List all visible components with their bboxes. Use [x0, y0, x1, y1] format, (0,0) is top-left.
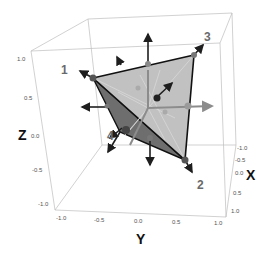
vertex-label-3: 3: [204, 30, 211, 44]
svg-text:-0.5: -0.5: [235, 157, 246, 163]
svg-text:0.0: 0.0: [235, 170, 244, 176]
z-axis-label: Z: [18, 127, 27, 143]
svg-text:-1.0: -1.0: [38, 201, 49, 207]
svg-text:0.5: 0.5: [24, 95, 33, 101]
svg-text:-1.0: -1.0: [237, 145, 248, 151]
svg-text:-0.5: -0.5: [32, 167, 43, 173]
svg-text:0.0: 0.0: [31, 133, 40, 139]
svg-text:0.0: 0.0: [134, 218, 143, 224]
y-axis-label: Y: [136, 231, 146, 247]
svg-text:-1.0: -1.0: [56, 215, 67, 221]
vertex-label-4: 4: [107, 129, 114, 143]
x-axis-label: X: [246, 167, 256, 183]
vertex-label-2: 2: [197, 178, 204, 192]
tetrahedron-3d-plot: 1 3 2 4 1.0 0.5 0.0 -0.5 -1.0 Z -1.0 -0.…: [0, 0, 269, 255]
vertex-label-1: 1: [61, 63, 68, 77]
arrow-upper-left: [117, 57, 121, 65]
svg-text:1.0: 1.0: [17, 56, 26, 62]
svg-text:-0.5: -0.5: [94, 217, 105, 223]
y-axis-ticks: -1.0 -0.5 0.0 0.5 1.0: [56, 215, 223, 226]
svg-text:1.0: 1.0: [231, 208, 240, 214]
svg-text:1.0: 1.0: [214, 220, 223, 226]
svg-text:0.5: 0.5: [233, 190, 242, 196]
svg-text:0.5: 0.5: [172, 219, 181, 225]
